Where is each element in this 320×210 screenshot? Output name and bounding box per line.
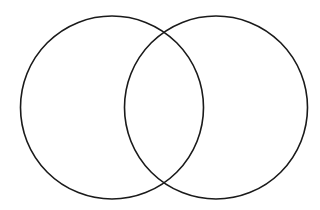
venn-circle-left xyxy=(21,16,204,199)
venn-diagram xyxy=(0,0,320,210)
venn-diagram-svg xyxy=(0,0,320,210)
venn-circle-right xyxy=(125,16,308,199)
